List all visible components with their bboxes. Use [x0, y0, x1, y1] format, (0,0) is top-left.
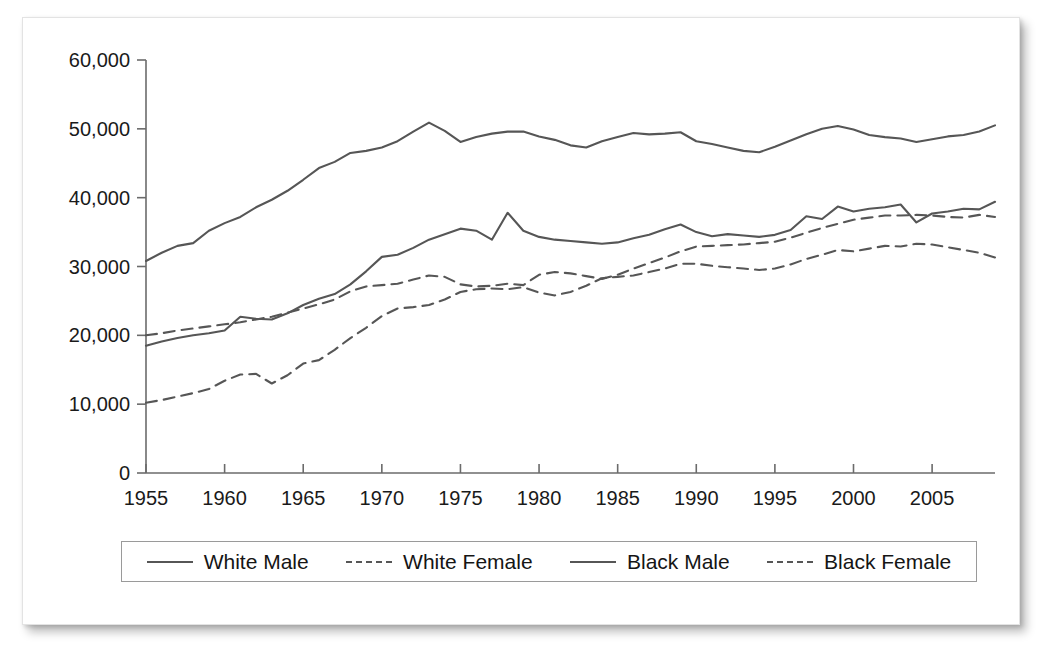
x-tick-label: 1980	[517, 487, 562, 509]
legend-line-icon	[570, 561, 616, 563]
y-tick-label: 20,000	[69, 324, 130, 346]
x-tick-label: 1970	[360, 487, 405, 509]
x-tick-label: 1955	[124, 487, 169, 509]
y-tick-label: 0	[119, 462, 130, 484]
legend-label: Black Female	[824, 550, 951, 574]
chart-legend: White MaleWhite FemaleBlack MaleBlack Fe…	[121, 541, 977, 582]
series-container	[146, 123, 995, 403]
legend-line-icon	[767, 561, 813, 563]
page-root: 010,00020,00030,00040,00050,00060,000 19…	[0, 0, 1063, 659]
y-tick-label: 60,000	[69, 49, 130, 71]
x-tick-label: 1990	[674, 487, 719, 509]
x-tick-label: 2000	[831, 487, 876, 509]
x-tick-label: 2005	[910, 487, 955, 509]
y-tick-label: 40,000	[69, 187, 130, 209]
legend-item-black-female: Black Female	[767, 550, 951, 574]
legend-item-black-male: Black Male	[570, 550, 730, 574]
y-tick-label: 10,000	[69, 393, 130, 415]
legend-label: Black Male	[627, 550, 730, 574]
y-tick-label: 30,000	[69, 256, 130, 278]
legend-item-white-male: White Male	[147, 550, 309, 574]
figure-card: 010,00020,00030,00040,00050,00060,000 19…	[22, 17, 1020, 625]
x-tick-label: 1960	[202, 487, 247, 509]
line-chart: 010,00020,00030,00040,00050,00060,000 19…	[23, 18, 1021, 626]
series-black-female	[146, 244, 995, 403]
chart-svg: 010,00020,00030,00040,00050,00060,000 19…	[23, 18, 1021, 626]
y-tick-label: 50,000	[69, 118, 130, 140]
x-tick-label: 1995	[753, 487, 798, 509]
y-axis: 010,00020,00030,00040,00050,00060,000	[69, 49, 146, 484]
legend-label: White Female	[403, 550, 533, 574]
x-axis: 1955196019651970197519801985199019952000…	[124, 464, 995, 509]
legend-label: White Male	[204, 550, 309, 574]
legend-line-icon	[346, 561, 392, 563]
series-white-female	[146, 215, 995, 335]
x-tick-label: 1965	[281, 487, 326, 509]
x-tick-label: 1975	[438, 487, 483, 509]
x-tick-label: 1985	[595, 487, 640, 509]
legend-line-icon	[147, 561, 193, 563]
legend-item-white-female: White Female	[346, 550, 533, 574]
